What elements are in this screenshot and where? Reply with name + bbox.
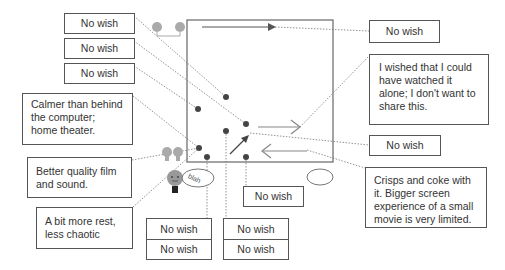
label-box-bottom-3: No wish	[223, 218, 289, 240]
label-text: No wish	[81, 67, 118, 80]
label-text: I wished that I could have watched it al…	[379, 61, 476, 112]
label-box-left-2: No wish	[64, 38, 135, 59]
label-text: Calmer than behind the computer; home th…	[31, 98, 123, 136]
label-box-bottom-1: No wish	[146, 218, 212, 240]
label-box-calmer: Calmer than behind the computer; home th…	[22, 93, 133, 145]
speech-bubble-icon: blah	[182, 169, 214, 187]
label-box-left-3: No wish	[64, 63, 135, 84]
label-text: No wish	[255, 190, 292, 203]
label-text: No wish	[160, 223, 197, 236]
thought-cloud-icon	[307, 169, 333, 185]
label-box-right-3: No wish	[369, 135, 441, 156]
label-text: No wish	[386, 25, 423, 38]
people-top-icon	[152, 22, 185, 36]
label-box-watched-alone: I wished that I could have watched it al…	[369, 54, 489, 125]
label-text: No wish	[81, 17, 118, 30]
arrow-left-open-icon	[262, 144, 307, 158]
arrow-diagonal-icon	[230, 135, 249, 154]
label-box-crisps: Crisps and coke with it. Bigger screen e…	[365, 167, 487, 228]
label-text: No wish	[237, 223, 274, 236]
label-box-more-rest: A bit more rest, less chaotic	[36, 207, 133, 249]
arrow-right-top-icon	[202, 23, 276, 31]
label-text: No wish	[237, 243, 274, 256]
people-left-icon	[162, 147, 183, 161]
label-box-bottom-4: No wish	[223, 239, 289, 260]
arrow-right-open-icon	[258, 120, 300, 134]
room-frame	[187, 20, 333, 162]
label-box-left-1: No wish	[64, 13, 135, 34]
label-box-bottom-5: No wish	[243, 186, 304, 207]
label-text: No wish	[160, 243, 197, 256]
label-box-right-1: No wish	[369, 20, 440, 43]
label-text: No wish	[81, 42, 118, 55]
label-text: No wish	[386, 139, 423, 152]
position-dots	[195, 94, 249, 160]
face-icon	[167, 170, 183, 193]
label-box-better-quality: Better quality film and sound.	[27, 157, 132, 198]
label-text: Better quality film and sound.	[36, 165, 117, 190]
label-text: Crisps and coke with it. Bigger screen e…	[374, 174, 473, 225]
label-box-bottom-2: No wish	[146, 239, 212, 260]
label-text: A bit more rest, less chaotic	[45, 215, 116, 240]
